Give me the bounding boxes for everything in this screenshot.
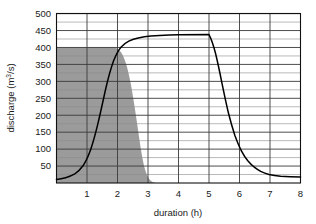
y-axis-title-tail: /s) <box>5 63 16 74</box>
y-tick-label: 500 <box>35 8 51 19</box>
y-tick-label: 400 <box>35 42 51 53</box>
y-tick-label: 50 <box>40 160 51 171</box>
y-tick-label: 300 <box>35 76 51 87</box>
y-tick-label: 450 <box>35 25 51 36</box>
discharge-duration-chart: 50 100 150 200 250 300 350 400 450 500 1… <box>0 0 316 224</box>
x-tick-label: 4 <box>176 188 181 199</box>
x-tick-label: 6 <box>237 188 242 199</box>
y-tick-label: 200 <box>35 110 51 121</box>
x-tick-label: 2 <box>115 188 120 199</box>
y-axis-title: discharge (m3/s) <box>5 63 16 132</box>
chart-container: 50 100 150 200 250 300 350 400 450 500 1… <box>0 0 316 224</box>
y-tick-label: 250 <box>35 93 51 104</box>
x-tick-label: 1 <box>84 188 89 199</box>
x-tick-label: 7 <box>267 188 272 199</box>
y-tick-label: 350 <box>35 59 51 70</box>
y-axis-title-main: discharge (m <box>5 78 16 133</box>
x-tick-label: 3 <box>145 188 150 199</box>
y-tick-label: 150 <box>35 126 51 137</box>
y-tick-label: 100 <box>35 143 51 154</box>
svg-text:discharge (m3/s): discharge (m3/s) <box>5 63 16 132</box>
x-axis-title: duration (h) <box>154 207 203 218</box>
x-tick-label: 8 <box>298 188 303 199</box>
x-tick-label: 5 <box>206 188 211 199</box>
